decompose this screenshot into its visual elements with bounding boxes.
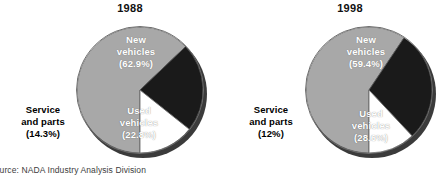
label-value: (59.4%): [326, 58, 406, 70]
chart-title-1998: 1998: [240, 2, 440, 14]
label-used-vehicles-1988: Used vehicles (22.8%): [106, 105, 172, 141]
label-line: New: [96, 34, 176, 46]
label-line: vehicles: [106, 117, 172, 129]
label-value: (22.8%): [106, 129, 172, 141]
chart-panel-1998: 1998 New vehicles (59.4%) Used vehicles: [220, 0, 440, 178]
label-new-vehicles-1998: New vehicles (59.4%): [326, 34, 406, 70]
label-service-and-parts-1988: Service and parts (14.3%): [6, 104, 80, 140]
label-line: vehicles: [96, 46, 176, 58]
label-line: vehicles: [326, 46, 406, 58]
label-value: (14.3%): [6, 128, 80, 140]
label-value: (62.9%): [96, 58, 176, 70]
chart-panel-1988: 1988 New vehicles (62.9%) Used vehicles: [0, 0, 220, 178]
pie-chart-figure: 1988 New vehicles (62.9%) Used vehicles: [0, 0, 440, 178]
label-value: (12%): [234, 128, 308, 140]
label-line: Used: [106, 105, 172, 117]
label-new-vehicles-1988: New vehicles (62.9%): [96, 34, 176, 70]
chart-title-1988: 1988: [20, 2, 240, 14]
label-line: vehicles: [338, 120, 404, 132]
label-line: and parts: [234, 116, 308, 128]
label-line: New: [326, 34, 406, 46]
label-line: Service: [234, 104, 308, 116]
label-value: (28.6%): [338, 132, 404, 144]
source-note: Source: NADA Industry Analysis Division: [0, 165, 146, 175]
label-line: Used: [338, 108, 404, 120]
label-line: Service: [6, 104, 80, 116]
label-line: and parts: [6, 116, 80, 128]
label-used-vehicles-1998: Used vehicles (28.6%): [338, 108, 404, 144]
label-service-and-parts-1998: Service and parts (12%): [234, 104, 308, 140]
